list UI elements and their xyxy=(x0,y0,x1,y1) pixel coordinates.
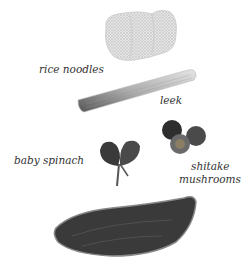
shitake-label-line2: mushrooms xyxy=(179,173,241,185)
baby-spinach-image xyxy=(96,136,146,188)
leek-image xyxy=(76,66,200,116)
shitake-mushrooms-image xyxy=(160,118,210,156)
beef-image xyxy=(52,192,202,258)
leek-label: leek xyxy=(160,94,182,106)
rice-noodles-image xyxy=(100,6,180,64)
shitake-label-line1: shitake xyxy=(191,160,230,172)
baby-spinach-label: baby spinach xyxy=(14,154,84,166)
